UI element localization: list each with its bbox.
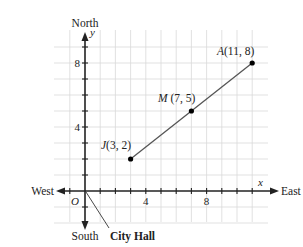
y-tick-label-8: 8 [75, 57, 81, 69]
west-label: West [31, 185, 55, 197]
west-arrow-icon [56, 188, 65, 195]
x-tick-label-4: 4 [143, 195, 149, 207]
coordinate-diagram: 4 8 4 8 y x O North South East West City… [0, 0, 303, 247]
city-hall-label: City Hall [110, 230, 155, 243]
x-axis-label: x [257, 176, 263, 188]
x-axis [56, 188, 279, 195]
point-j-coords: (3, 2) [106, 139, 131, 152]
x-tick-label-8: 8 [204, 195, 210, 207]
point-m-marker [189, 108, 194, 113]
point-m-label: M (7, 5) [157, 92, 196, 105]
point-j-marker [128, 156, 133, 161]
y-tick-label-4: 4 [75, 121, 81, 133]
north-label: North [72, 17, 99, 29]
east-arrow-icon [270, 188, 279, 195]
origin-label: O [71, 195, 79, 207]
point-m-coords: (7, 5) [168, 92, 196, 105]
y-axis [82, 32, 89, 230]
point-a-label: A(11, 8) [216, 45, 254, 58]
south-arrow-icon [82, 221, 89, 230]
point-a-marker [250, 60, 255, 65]
north-arrow-icon [82, 32, 89, 41]
south-label: South [72, 230, 99, 242]
point-j-label: J(3, 2) [101, 139, 131, 152]
point-a-coords: (11, 8) [224, 45, 254, 58]
east-label: East [281, 185, 302, 197]
